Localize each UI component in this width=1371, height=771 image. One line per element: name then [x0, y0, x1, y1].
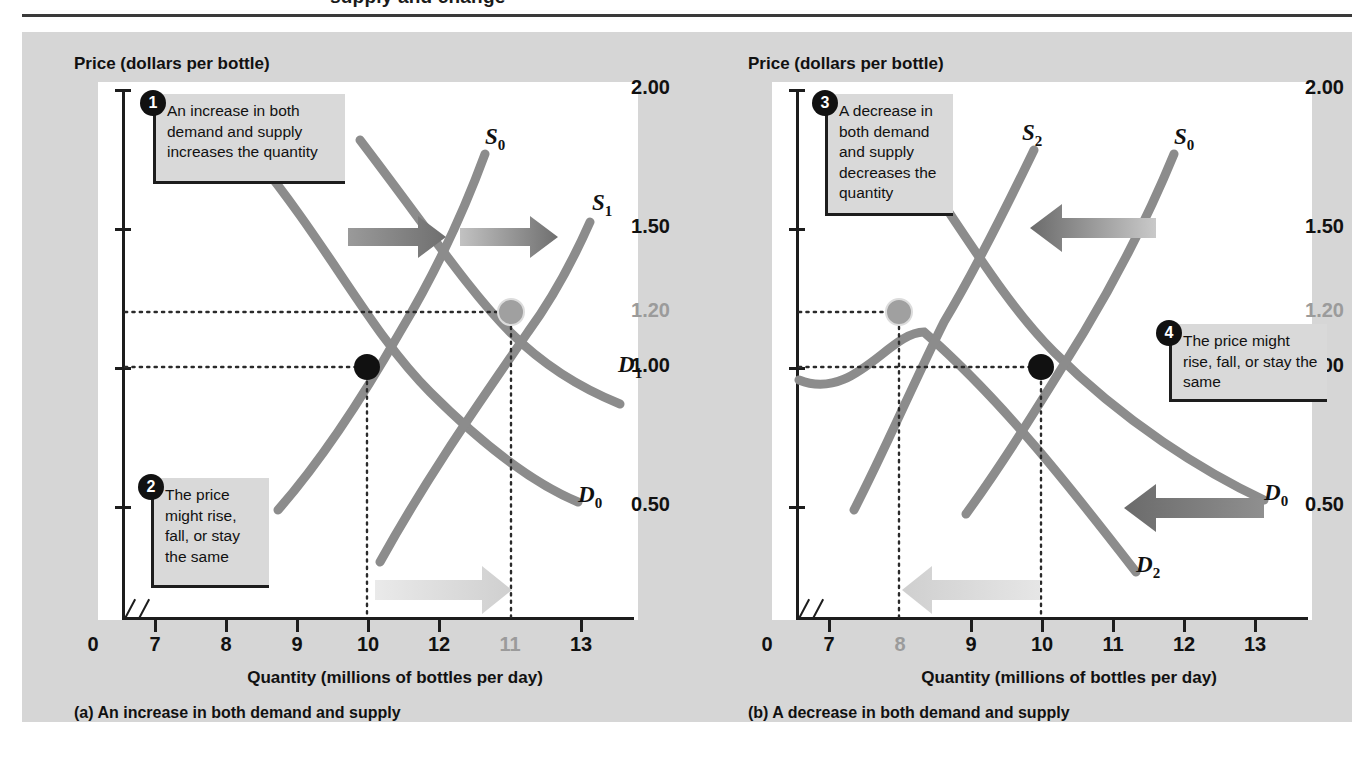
figure-body: Price (dollars per bottle) 2.00 1.50 1.2…: [22, 32, 1352, 722]
curve-label-D0-b: D0: [1264, 480, 1288, 510]
equilibrium-point-new-b: [886, 299, 912, 325]
callout-badge-2: 2: [138, 474, 164, 500]
panel-caption-a: (a) An increase in both demand and suppl…: [74, 704, 401, 722]
callout-box-1: An increase in both demand and supply in…: [153, 94, 345, 184]
quantity-change-arrow-a: [375, 566, 512, 614]
curve-label-D0-a: D0: [578, 482, 602, 512]
demand-curve-D2-b: [799, 332, 1136, 572]
demand-shift-arrow-a: [348, 216, 446, 258]
panel-b: Price (dollars per bottle) 2.00 1.50 1.2…: [704, 32, 1344, 722]
curve-label-S0-b: S0: [1174, 124, 1194, 154]
demand-curve-D0-b: [900, 140, 1264, 500]
callout-box-4: The price might rise, fall, or stay the …: [1169, 324, 1327, 402]
curve-label-D2-b: D2: [1136, 552, 1160, 582]
header-rule: [22, 14, 1352, 17]
callout-badge-3: 3: [812, 90, 838, 116]
quantity-change-arrow-b: [902, 566, 1040, 614]
demand-curve-D1-a: [360, 140, 620, 404]
curve-label-S1-a: S1: [592, 190, 612, 220]
callout-box-2: The price might rise, fall, or stay the …: [151, 478, 269, 588]
panel-caption-b: (b) A decrease in both demand and supply: [748, 704, 1070, 722]
curves-a: [30, 32, 670, 722]
callout-box-3: A decrease in both demand and supply dec…: [825, 94, 953, 216]
figure-page: supply and change Price (dollars per bot…: [0, 0, 1371, 771]
curve-label-S2-b: S2: [1022, 120, 1042, 150]
curve-label-D1-a: D1: [618, 352, 642, 382]
equilibrium-point-initial-a: [354, 354, 380, 380]
clipped-figure-title: supply and change: [330, 0, 930, 12]
equilibrium-point-initial-b: [1028, 354, 1054, 380]
supply-curve-S1-a: [380, 222, 590, 562]
supply-curve-S0-b: [966, 154, 1174, 514]
supply-shift-arrow-a: [460, 216, 558, 258]
curve-label-S0-a: S0: [485, 124, 505, 154]
x-axis-title-b: Quantity (millions of bottles per day): [834, 668, 1304, 688]
x-axis-title-a: Quantity (millions of bottles per day): [160, 668, 630, 688]
panel-a: Price (dollars per bottle) 2.00 1.50 1.2…: [30, 32, 670, 722]
callout-badge-1: 1: [140, 90, 166, 116]
callout-badge-4: 4: [1156, 320, 1182, 346]
equilibrium-point-new-a: [498, 299, 524, 325]
